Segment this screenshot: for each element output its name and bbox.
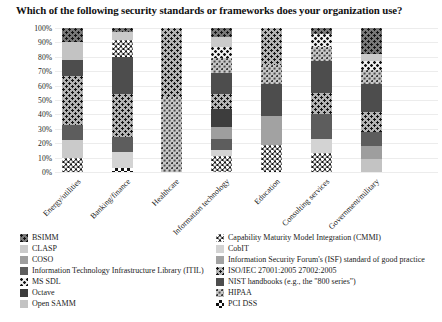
y-axis-tick-label: 10% — [18, 154, 52, 163]
legend-label: MS SDL — [32, 277, 61, 286]
bar-segment-nist — [311, 61, 332, 93]
bar-segment-nist — [211, 73, 232, 95]
bar-segment-clasp — [361, 54, 382, 61]
legend-swatch-cmmi — [216, 234, 224, 242]
legend-item-pci: PCI DSS — [216, 298, 425, 309]
x-category-label: Consulting services — [281, 177, 332, 228]
legend-label: NIST handbooks (e.g., the "800 series") — [228, 277, 356, 286]
bar-segment-nist — [62, 60, 83, 76]
bar-segment-bsimm — [211, 28, 232, 37]
bar-segment-cmmi — [311, 153, 332, 172]
legend-item-isf: Information Security Forum's (ISF) stand… — [216, 254, 425, 265]
legend-column-right: Capability Maturity Model Integration (C… — [216, 232, 425, 309]
legend-item-opensamm: Open SAMM — [20, 298, 204, 309]
bar-segment-hipaa — [311, 47, 332, 61]
stacked-bar-consulting-services — [311, 28, 332, 172]
bar-segment-nist — [361, 84, 382, 111]
stacked-bar-banking-finance — [112, 28, 133, 172]
bar-segment-hipaa — [161, 97, 182, 172]
x-category-label: Healthcare — [151, 177, 182, 208]
legend-swatch-hipaa — [216, 289, 224, 297]
legend-label: COSO — [32, 255, 53, 264]
bar-segment-cmmi — [112, 40, 133, 57]
y-axis-tick-label: 20% — [18, 139, 52, 148]
x-category-label: Information technology — [171, 177, 231, 237]
bar-segment-isf — [261, 116, 282, 145]
legend-label: HIPAA — [228, 288, 252, 297]
legend-label: CLASP — [32, 244, 57, 253]
legend-label: Open SAMM — [32, 299, 76, 308]
legend-item-clasp: CLASP — [20, 243, 204, 254]
legend-label: BSIMM — [32, 233, 59, 242]
bar-segment-cmmi — [62, 158, 83, 172]
stacked-bar-energy-utilities — [62, 28, 83, 172]
legend-swatch-itil — [20, 267, 28, 275]
y-axis-tick-label: 40% — [18, 110, 52, 119]
y-axis-tick-label: 0% — [18, 168, 52, 177]
legend-swatch-pci — [216, 300, 224, 308]
y-axis-tick-label: 50% — [18, 96, 52, 105]
legend-swatch-opensamm — [20, 300, 28, 308]
bar-segment-itil — [311, 114, 332, 138]
legend-item-hipaa: HIPAA — [216, 287, 425, 298]
legend-swatch-clasp — [20, 245, 28, 253]
y-axis-tick-label: 100% — [18, 24, 52, 33]
legend-swatch-iso — [216, 267, 224, 275]
bar-segment-opensamm — [62, 42, 83, 59]
x-category-label: Government/military — [327, 177, 381, 231]
legend-label: Information Technology Infrastructure Li… — [32, 266, 204, 275]
legend-label: Information Security Forum's (ISF) stand… — [228, 255, 425, 264]
bar-segment-clasp — [112, 32, 133, 39]
legend-item-cobit: CobIT — [216, 243, 425, 254]
legend-swatch-cobit — [216, 245, 224, 253]
legend-item-coso: COSO — [20, 254, 204, 265]
bar-segment-hipaa — [261, 65, 282, 84]
bar-segment-nist — [112, 57, 133, 94]
legend-swatch-isf — [216, 256, 224, 264]
legend-swatch-mssdl — [20, 278, 28, 286]
y-axis-tick-label: 90% — [18, 38, 52, 47]
bar-segment-cmmi — [261, 145, 282, 172]
bar-segment-iso — [161, 28, 182, 97]
gridline — [55, 172, 438, 173]
x-category-label: Energy/utilities — [41, 177, 82, 218]
bar-segment-iso — [211, 94, 232, 108]
bar-segment-itil — [112, 137, 133, 151]
bar-segment-hipaa — [211, 58, 232, 72]
bar-segment-hipaa — [361, 70, 382, 84]
bar-segment-itil — [361, 132, 382, 146]
survey-stacked-bar-figure: Which of the following security standard… — [0, 0, 442, 322]
x-category-label: Education — [252, 177, 281, 206]
legend-item-bsimm: BSIMM — [20, 232, 204, 243]
legend-item-nist: NIST handbooks (e.g., the "800 series") — [216, 276, 425, 287]
legend-item-octave: Octave — [20, 287, 204, 298]
bar-segment-pci — [112, 168, 133, 172]
x-category-label: Banking/finance — [89, 177, 133, 221]
y-axis-tick-label: 30% — [18, 125, 52, 134]
y-axis-tick-label: 70% — [18, 67, 52, 76]
bar-segment-opensamm — [361, 159, 382, 172]
bar-segment-itil — [62, 125, 83, 141]
bar-segment-mssdl — [361, 61, 382, 70]
bar-segment-mssdl — [311, 34, 332, 47]
bar-segment-itil — [211, 139, 232, 151]
legend-column-left: BSIMMCLASPCOSOInformation Technology Inf… — [20, 232, 204, 309]
bar-segment-coso — [361, 146, 382, 159]
legend-label: ISO/IEC 27001:2005 27002:2005 — [228, 266, 336, 275]
legend-swatch-bsimm — [20, 234, 28, 242]
y-axis-tick-label: 60% — [18, 82, 52, 91]
stacked-bar-government-military — [361, 28, 382, 172]
bar-segment-iso — [261, 28, 282, 65]
bar-segment-coso — [211, 127, 232, 139]
legend-item-mssdl: MS SDL — [20, 276, 204, 287]
legend-label: CobIT — [228, 244, 249, 253]
legend-label: Octave — [32, 288, 55, 297]
bar-segment-clasp — [211, 37, 232, 47]
stacked-bar-healthcare — [161, 28, 182, 172]
bar-segment-nist — [261, 84, 282, 116]
legend-label: Capability Maturity Model Integration (C… — [228, 233, 381, 242]
legend-swatch-nist — [216, 278, 224, 286]
bar-segment-iso — [361, 112, 382, 132]
legend-item-iso: ISO/IEC 27001:2005 27002:2005 — [216, 265, 425, 276]
y-axis-tick-label: 80% — [18, 53, 52, 62]
